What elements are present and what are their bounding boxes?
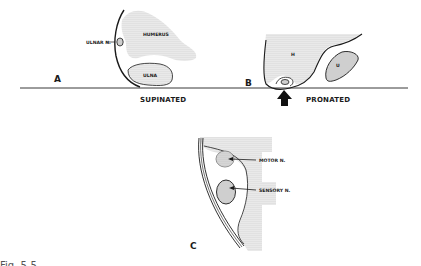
pronated-label: PRONATED <box>306 96 350 104</box>
panel-a-label: A <box>54 74 61 84</box>
panel-c-label: C <box>190 241 197 251</box>
panel-a: ULNAR N. HUMERUS ULNA A SUPINATED <box>54 10 196 104</box>
ulnar-nerve <box>117 38 123 46</box>
panel-b: H U B PRONATED <box>245 34 362 106</box>
b-ulna-shape <box>326 51 359 81</box>
figure-canvas: ULNAR N. HUMERUS ULNA A SUPINATED H U B … <box>0 0 421 266</box>
humerus-label: HUMERUS <box>143 32 169 37</box>
sensory-nerve-label: SENSORY N. <box>259 188 291 193</box>
b-ulna-label: U <box>336 63 340 68</box>
sensory-nerve <box>217 180 236 204</box>
supinated-label: SUPINATED <box>140 96 186 104</box>
ulna-label: ULNA <box>143 73 158 78</box>
figure-caption-truncated: Fig. 5-5 ... <box>0 259 421 266</box>
b-ulnar-nerve <box>281 80 289 85</box>
ulnar-nerve-label: ULNAR N. <box>86 40 111 45</box>
panel-b-label: B <box>245 78 252 88</box>
panel-c: MOTOR N. SENSORY N. C <box>190 137 291 251</box>
b-humerus-label: H <box>291 52 295 57</box>
pressure-arrow-icon <box>277 90 292 106</box>
motor-nerve-label: MOTOR N. <box>259 158 285 163</box>
